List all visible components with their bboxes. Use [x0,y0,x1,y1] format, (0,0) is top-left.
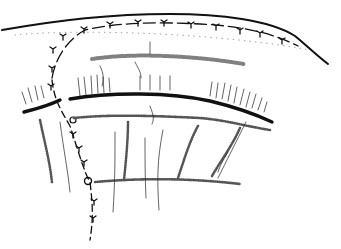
interrupted-suture-line-top [50,20,298,78]
tissue-strands [60,106,246,212]
stippled-band [15,32,310,64]
dotted-mesh-lines [40,116,270,184]
surgical-illustration [0,0,341,249]
vertical-suture-line [48,66,97,240]
